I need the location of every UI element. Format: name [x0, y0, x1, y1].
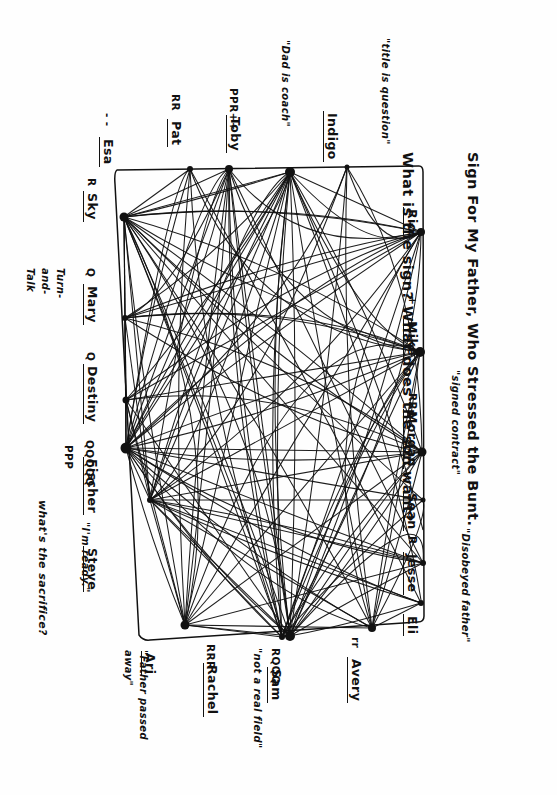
note-whats-the-sacrifice: what's the sacrifice? [36, 500, 48, 636]
node-tags-jesse: R [407, 536, 418, 545]
page-title-line1: Sign For My Father, Who Stressed the Bun… [462, 152, 484, 582]
note-title-is-question: "title is question" [379, 38, 390, 145]
node-name-rachel: Rachel [204, 663, 219, 717]
note-turn-and-talk: Turn- and- Talk [23, 268, 68, 299]
node-tags-fischer: QQQQQ [84, 440, 95, 487]
node-tags-pat: RR [170, 94, 181, 111]
node-tags-avery: rr [350, 637, 361, 648]
node-name-indigo: Indigo [324, 111, 339, 162]
page-title: Sign For My Father, Who Stressed the Bun… [353, 152, 527, 582]
node-name-eli: Eli [404, 614, 419, 636]
node-label-eli[interactable]: Eli [390, 595, 432, 636]
node-name-sean: Sean [404, 491, 419, 531]
node-label-sean[interactable]: Sean [390, 472, 432, 531]
node-name-pat: Pat [168, 119, 183, 147]
note-not-a-real-field: "not a real field" [251, 648, 262, 749]
note-disobeyed-father: "Disobeyed father" [459, 528, 470, 643]
note-dad-is-coach: "Dad is coach" [279, 40, 290, 127]
node-name-rio: Rio [404, 207, 419, 235]
node-tags-sky: R [86, 178, 97, 187]
node-name-sky: Sky [84, 191, 99, 222]
node-tags-destiny: Q [85, 352, 96, 361]
node-name-avery: Avery [348, 657, 363, 703]
node-label-rio[interactable]: Rio [390, 188, 432, 235]
node-name-jesse: Jesse [404, 552, 419, 595]
node-name-esa: Esa [100, 137, 115, 167]
note-fischer-ppp: PPP [63, 445, 74, 469]
discussion-map-sheet: Sign For My Father, Who Stressed the Bun… [0, 0, 557, 795]
note-im-ready: "I'm ready." [79, 522, 90, 593]
node-label-indigo[interactable]: Indigo [310, 92, 352, 162]
node-tags-mike: + [407, 296, 418, 305]
node-label-mike[interactable]: Mike [390, 300, 432, 358]
node-tags-morgan: RR+ [407, 393, 418, 419]
node-label-steve[interactable]: Steve [70, 527, 112, 592]
node-tags-esa: - - [102, 113, 113, 127]
node-name-destiny: Destiny [84, 364, 99, 424]
node-name-mike: Mike [404, 319, 419, 358]
note-signed-contract: "signed contract" [449, 370, 460, 475]
node-tags-sam: RQQQ [270, 648, 281, 684]
node-tags-toby: PPR++ [228, 88, 239, 131]
node-tags-rachel: RRR [205, 644, 216, 669]
node-name-mary: Mary [84, 284, 99, 325]
note-father-passed-away: "Father passed away" [121, 650, 150, 740]
node-tags-mary: Q [85, 268, 96, 277]
